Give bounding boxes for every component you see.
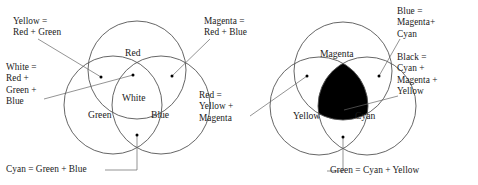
- dot-cyan: [136, 134, 139, 137]
- annotation-yellow: Yellow = Red + Green: [13, 16, 61, 39]
- dot-magenta: [171, 75, 174, 78]
- leader-magenta: [172, 39, 210, 76]
- red-circle: [88, 21, 186, 119]
- annotation-white: White = Red + Green + Blue: [6, 62, 37, 108]
- yellow-circle-label: Yellow: [293, 110, 320, 121]
- annotation-cyan: Cyan = Green + Blue: [6, 164, 87, 175]
- annotation-magenta: Magenta = Red + Blue: [204, 16, 247, 39]
- dot-green: [342, 136, 345, 139]
- black-intersection-region: [294, 22, 392, 120]
- dot-white: [132, 74, 135, 77]
- annotation-red: Red = Yellow + Magenta: [199, 90, 233, 124]
- figure-canvas: Red Green Blue White Magenta Yellow Cyan…: [0, 0, 478, 185]
- green-circle-label: Green: [88, 109, 111, 120]
- annotation-blue: Blue = Magenta+ Cyan: [397, 6, 435, 40]
- dot-red: [306, 75, 309, 78]
- dot-blue: [378, 75, 381, 78]
- red-circle-label: Red: [125, 47, 140, 58]
- blue-circle: [112, 56, 210, 154]
- green-circle: [64, 56, 162, 154]
- annotation-green: Green = Cyan + Yellow: [330, 165, 419, 176]
- annotation-black: Black = Cyan + Magenta + Yellow: [397, 52, 438, 98]
- cyan-circle-label: Cyan: [355, 110, 375, 121]
- magenta-circle-label: Magenta: [320, 48, 354, 59]
- leader-yellow: [38, 39, 101, 77]
- blue-circle-label: Blue: [151, 109, 169, 120]
- white-region-label: White: [122, 92, 145, 103]
- dot-yellow: [100, 76, 103, 79]
